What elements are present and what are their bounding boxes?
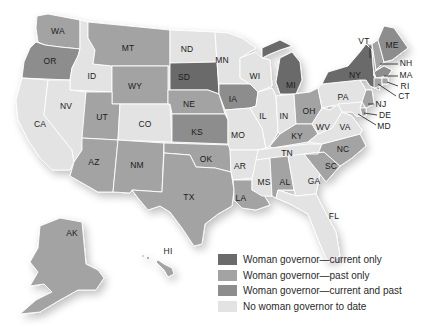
label-mn: MN xyxy=(215,55,229,65)
label-pa: PA xyxy=(337,92,348,102)
label-mo: MO xyxy=(231,130,245,140)
label-co: CO xyxy=(138,119,151,129)
label-wi: WI xyxy=(250,71,261,81)
label-de: DE xyxy=(379,110,391,120)
label-il: IL xyxy=(259,111,267,121)
legend-item-current-and-past: Woman governor—current and past xyxy=(218,283,402,298)
label-wv: WV xyxy=(316,122,330,132)
label-nm: NM xyxy=(130,160,144,170)
legend-swatch xyxy=(218,285,237,296)
label-la: LA xyxy=(236,193,247,203)
state-nd[interactable] xyxy=(170,30,217,63)
state-ak[interactable] xyxy=(20,218,104,314)
legend-item-current-only: Woman governor—current only xyxy=(218,252,402,267)
label-ne: NE xyxy=(183,99,195,109)
label-or: OR xyxy=(43,56,56,66)
label-in: IN xyxy=(280,111,289,121)
label-wy: WY xyxy=(128,81,142,91)
label-ut: UT xyxy=(96,112,108,122)
legend-label: No woman governor to date xyxy=(243,301,366,312)
label-ma: MA xyxy=(399,70,412,80)
legend-swatch xyxy=(218,270,237,281)
label-al: AL xyxy=(280,177,291,187)
label-mi: MI xyxy=(286,80,296,90)
state-hi-small-island xyxy=(142,255,145,258)
label-mt: MT xyxy=(122,43,135,53)
label-va: VA xyxy=(339,122,350,132)
label-nh: NH xyxy=(400,58,413,68)
state-ri[interactable] xyxy=(382,78,388,84)
label-sc: SC xyxy=(325,161,337,171)
label-wa: WA xyxy=(51,26,65,36)
legend: Woman governor—current only Woman govern… xyxy=(218,252,402,314)
label-ok: OK xyxy=(200,154,213,164)
leader-ri xyxy=(387,82,398,86)
state-ne[interactable] xyxy=(168,90,225,114)
label-ky: KY xyxy=(291,131,303,141)
legend-label: Woman governor—past only xyxy=(243,270,370,281)
legend-label: Woman governor—current and past xyxy=(243,285,402,296)
state-ia[interactable] xyxy=(219,84,258,110)
state-hi-small-island xyxy=(146,256,149,259)
legend-swatch xyxy=(218,301,237,312)
state-hi[interactable] xyxy=(156,260,174,277)
label-nj: NJ xyxy=(376,99,387,109)
label-nv: NV xyxy=(60,101,72,111)
label-nc: NC xyxy=(337,144,350,154)
label-ar: AR xyxy=(234,161,246,171)
label-ct: CT xyxy=(398,91,410,101)
label-hi: HI xyxy=(164,246,173,256)
label-az: AZ xyxy=(88,157,99,167)
label-ny: NY xyxy=(349,70,361,80)
label-tn: TN xyxy=(281,148,293,158)
state-ct[interactable] xyxy=(374,78,382,88)
label-ia: IA xyxy=(229,94,238,104)
label-fl: FL xyxy=(329,211,339,221)
label-oh: OH xyxy=(302,106,315,116)
label-ak: AK xyxy=(66,228,78,238)
legend-item-none: No woman governor to date xyxy=(218,299,402,314)
leader-md xyxy=(358,114,376,125)
label-ga: GA xyxy=(308,176,321,186)
label-ms: MS xyxy=(257,177,270,187)
label-sd: SD xyxy=(178,72,190,82)
label-nd: ND xyxy=(181,44,194,54)
label-md: MD xyxy=(377,121,391,131)
legend-swatch xyxy=(218,254,237,265)
legend-label: Woman governor—current only xyxy=(243,254,382,265)
label-id: ID xyxy=(88,71,97,81)
leader-ct xyxy=(378,84,396,96)
label-tx: TX xyxy=(183,192,194,202)
label-me: ME xyxy=(385,40,398,50)
legend-item-past-only: Woman governor—past only xyxy=(218,268,402,283)
label-vt: VT xyxy=(358,36,369,46)
label-ri: RI xyxy=(401,81,410,91)
label-ks: KS xyxy=(191,127,203,137)
label-ca: CA xyxy=(34,119,46,129)
